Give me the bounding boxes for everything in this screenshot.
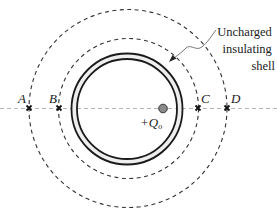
point-label-A: A <box>17 91 26 106</box>
charge-label: +Qo <box>140 115 162 131</box>
point-label-C: C <box>201 91 210 106</box>
arrowhead-icon <box>169 55 177 62</box>
annotation-leader-line <box>174 30 216 58</box>
point-D: D <box>225 91 242 111</box>
diagram-canvas: +Qo A B C D Uncharged insulating shell <box>0 0 277 208</box>
point-charge <box>159 104 168 113</box>
point-label-D: D <box>230 91 241 106</box>
point-label-B: B <box>49 91 57 106</box>
shell-label: Uncharged insulating shell <box>217 25 275 73</box>
